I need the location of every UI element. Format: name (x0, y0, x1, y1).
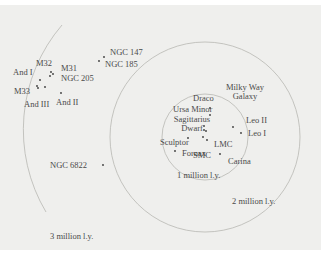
dot-ngc6822 (102, 164, 104, 166)
label-ring-3-million: 3 million l.y. (50, 232, 93, 241)
label-ngc205: NGC 205 (61, 74, 94, 83)
dot-ngc205 (49, 75, 51, 77)
label-sagittarius-line2: Dwarf (173, 124, 211, 133)
label-and1: And I (13, 68, 33, 77)
label-and3: And III (24, 100, 49, 109)
dot-and2 (60, 92, 62, 94)
label-draco: Draco (193, 94, 214, 103)
label-ngc6822: NGC 6822 (50, 161, 87, 170)
dot-fornax (174, 150, 176, 152)
label-ngc185: NGC 185 (105, 60, 138, 69)
label-milky-way: Milky Way Galaxy (224, 83, 266, 101)
label-sagittarius-dwarf: Sagittarius Dwarf (173, 115, 211, 133)
label-ursa-minor: Ursa Minor (173, 105, 212, 114)
dot-ngc147 (103, 56, 105, 58)
label-ngc147: NGC 147 (110, 48, 143, 57)
local-group-map: Milky Way Galaxy Draco Ursa Minor Sagitt… (0, 0, 321, 256)
dot-ngc185 (98, 60, 100, 62)
label-and2: And II (56, 98, 78, 107)
label-ring-1-million: 1 million l.y. (177, 171, 220, 180)
label-leo2: Leo II (246, 116, 267, 125)
label-m32: M32 (36, 59, 52, 68)
dot-m32 (50, 71, 52, 73)
label-lmc: LMC (214, 140, 232, 149)
dot-m31 (52, 73, 54, 75)
label-leo1: Leo I (248, 129, 266, 138)
label-m33: M33 (14, 87, 30, 96)
dot-smc (202, 136, 204, 138)
label-fornax: Fornax (182, 149, 206, 158)
label-m31: M31 (61, 64, 77, 73)
ring-3-million (23, 25, 62, 212)
distance-rings (0, 0, 321, 256)
dot-carina (219, 153, 221, 155)
label-milky-way-line2: Galaxy (224, 92, 266, 101)
dot-m33 (36, 85, 38, 87)
dot-and1 (39, 79, 41, 81)
dot-leo1 (240, 132, 242, 134)
dot-leo2 (232, 126, 234, 128)
label-ring-2-million: 2 million l.y. (232, 197, 275, 206)
label-sculptor: Sculptor (160, 138, 189, 147)
dot-lmc (206, 139, 208, 141)
label-carina: Carina (228, 157, 251, 166)
dot-and3 (44, 86, 46, 88)
dot-m33-b (37, 87, 39, 89)
